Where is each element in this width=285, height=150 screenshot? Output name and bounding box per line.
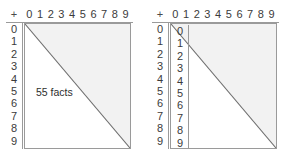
column-header: 1 xyxy=(35,8,46,21)
inner-digit: 6 xyxy=(173,99,187,111)
row-header: 2 xyxy=(152,48,168,60)
row-header: 6 xyxy=(152,97,168,109)
inner-column-rule-right xyxy=(188,25,189,149)
column-headers-right: 0 1 2 3 4 5 6 7 8 9 xyxy=(170,8,277,21)
column-header: 8 xyxy=(110,8,121,21)
facts-count-label-left: 55 facts xyxy=(36,86,73,98)
column-header: 3 xyxy=(56,8,67,21)
row-header: 1 xyxy=(152,35,168,47)
row-header: 4 xyxy=(152,73,168,85)
row-header: 7 xyxy=(152,110,168,122)
inner-digit: 7 xyxy=(173,112,187,124)
row-label-rule-right xyxy=(168,22,169,149)
column-header: 6 xyxy=(234,8,245,21)
inner-digit-column-right: 0 1 2 3 4 5 6 7 8 9 xyxy=(173,25,187,149)
row-header: 8 xyxy=(152,122,168,134)
row-header: 3 xyxy=(6,60,22,72)
column-header: 0 xyxy=(24,8,35,21)
column-header: 7 xyxy=(99,8,110,21)
table-grid-right: 0 1 2 3 4 5 6 7 8 9 xyxy=(170,23,277,149)
row-header: 9 xyxy=(152,135,168,147)
inner-digit: 4 xyxy=(173,75,187,87)
operator-symbol-left: + xyxy=(6,8,22,21)
addition-table-left: + 0 1 2 3 4 5 6 7 8 9 0 1 2 3 4 5 6 7 8 … xyxy=(6,8,133,150)
row-header: 4 xyxy=(6,73,22,85)
row-headers-left: 0 1 2 3 4 5 6 7 8 9 xyxy=(6,23,22,147)
column-header: 5 xyxy=(77,8,88,21)
column-header: 6 xyxy=(88,8,99,21)
row-header: 3 xyxy=(152,60,168,72)
inner-digit: 2 xyxy=(173,50,187,62)
column-header: 3 xyxy=(202,8,213,21)
column-header: 4 xyxy=(67,8,78,21)
row-headers-right: 0 1 2 3 4 5 6 7 8 9 xyxy=(152,23,168,147)
column-header: 7 xyxy=(245,8,256,21)
column-header: 0 xyxy=(170,8,181,21)
row-header: 2 xyxy=(6,48,22,60)
column-header: 5 xyxy=(223,8,234,21)
row-header: 5 xyxy=(152,85,168,97)
row-header: 0 xyxy=(152,23,168,35)
column-header: 9 xyxy=(266,8,277,21)
inner-digit: 8 xyxy=(173,124,187,136)
column-headers-left: 0 1 2 3 4 5 6 7 8 9 xyxy=(24,8,131,21)
row-header: 0 xyxy=(6,23,22,35)
figure-canvas: + 0 1 2 3 4 5 6 7 8 9 0 1 2 3 4 5 6 7 8 … xyxy=(0,0,285,150)
row-header: 7 xyxy=(6,110,22,122)
inner-digit: 5 xyxy=(173,87,187,99)
inner-digit: 1 xyxy=(173,37,187,49)
row-header: 8 xyxy=(6,122,22,134)
column-header: 1 xyxy=(181,8,192,21)
column-header: 4 xyxy=(213,8,224,21)
inner-digit: 0 xyxy=(173,25,187,37)
row-header: 1 xyxy=(6,35,22,47)
row-label-rule-left xyxy=(22,22,23,149)
column-header: 8 xyxy=(256,8,267,21)
addition-table-right: + 0 1 2 3 4 5 6 7 8 9 0 1 2 3 4 5 6 7 8 … xyxy=(152,8,279,150)
column-header: 2 xyxy=(45,8,56,21)
inner-digit: 3 xyxy=(173,62,187,74)
operator-symbol-right: + xyxy=(152,8,168,21)
row-header: 6 xyxy=(6,97,22,109)
inner-digit: 9 xyxy=(173,137,187,149)
row-header: 9 xyxy=(6,135,22,147)
column-header: 9 xyxy=(120,8,131,21)
column-header: 2 xyxy=(191,8,202,21)
row-header: 5 xyxy=(6,85,22,97)
